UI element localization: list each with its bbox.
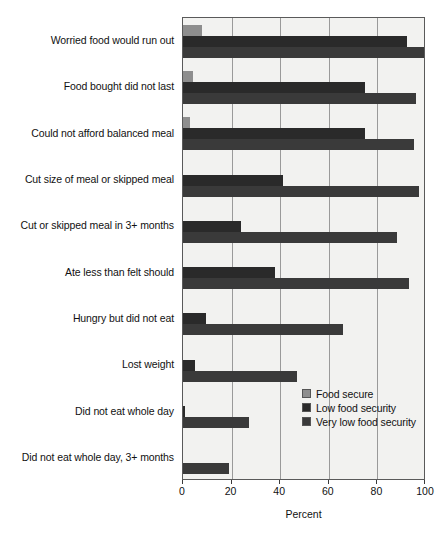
axis-tick-label: 60 [322, 485, 334, 497]
bar [183, 463, 229, 474]
bar [183, 82, 365, 93]
bar [183, 417, 249, 428]
category-label: Cut or skipped meal in 3+ months [0, 219, 174, 231]
axis-tick [231, 480, 232, 484]
food-security-bar-chart: Worried food would run outFood bought di… [0, 0, 443, 534]
bar [183, 360, 195, 371]
x-axis: 020406080100 [182, 480, 425, 510]
bar [183, 47, 424, 58]
category-label: Cut size of meal or skipped meal [0, 173, 174, 185]
bar [183, 36, 407, 47]
bar [183, 175, 283, 186]
legend-item[interactable]: Very low food security [302, 415, 437, 428]
category-label: Did not eat whole day [0, 405, 174, 417]
bar [183, 117, 190, 128]
category-label: Hungry but did not eat [0, 312, 174, 324]
axis-tick-label: 80 [371, 485, 383, 497]
chart-legend: Food secureLow food securityVery low foo… [302, 387, 437, 429]
legend-label: Low food security [316, 402, 396, 414]
legend-swatch-icon [302, 417, 311, 426]
category-label: Worried food would run out [0, 34, 174, 46]
axis-tick-label: 40 [273, 485, 285, 497]
axis-tick-label: 0 [179, 485, 185, 497]
legend-item[interactable]: Food secure [302, 387, 437, 400]
category-label: Could not afford balanced meal [0, 127, 174, 139]
bar [183, 278, 409, 289]
legend-label: Food secure [316, 388, 373, 400]
bar [183, 139, 414, 150]
axis-tick-label: 100 [416, 485, 434, 497]
bar [183, 324, 343, 335]
bar [183, 71, 193, 82]
bar [183, 221, 241, 232]
x-axis-title: Percent [182, 508, 425, 520]
bar [183, 406, 185, 417]
category-label-column: Worried food would run outFood bought di… [0, 17, 178, 480]
bar [183, 186, 419, 197]
bar [183, 93, 416, 104]
axis-tick [279, 480, 280, 484]
legend-item[interactable]: Low food security [302, 401, 437, 414]
category-label: Did not eat whole day, 3+ months [0, 451, 174, 463]
bar [183, 128, 365, 139]
axis-tick [182, 480, 183, 484]
category-label: Lost weight [0, 358, 174, 370]
axis-tick [328, 480, 329, 484]
category-label: Food bought did not last [0, 80, 174, 92]
legend-swatch-icon [302, 389, 311, 398]
axis-tick [424, 480, 425, 484]
axis-tick [376, 480, 377, 484]
bar [183, 232, 397, 243]
bar [183, 25, 202, 36]
legend-label: Very low food security [316, 416, 416, 428]
legend-swatch-icon [302, 403, 311, 412]
category-label: Ate less than felt should [0, 266, 174, 278]
bar [183, 267, 275, 278]
axis-tick-label: 20 [225, 485, 237, 497]
bar [183, 313, 206, 324]
bar [183, 371, 297, 382]
